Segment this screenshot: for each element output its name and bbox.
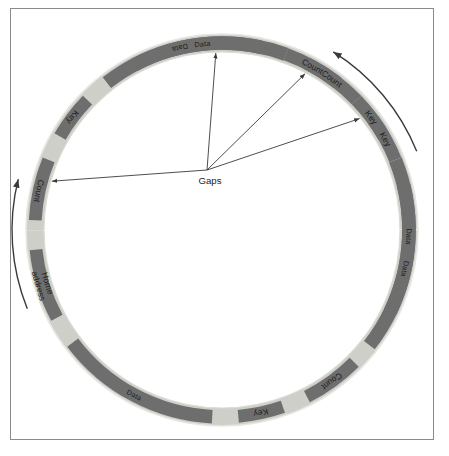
diagram-page: DataCountKeyDataCountKeyDataHomeaddressC… — [0, 0, 449, 456]
gaps-leader-arrow — [52, 170, 207, 181]
data-segment-label: Data — [194, 39, 211, 50]
gaps-leader-arrow — [207, 53, 216, 170]
data-segment-label: Data — [404, 228, 414, 244]
ring-diagram-svg: DataCountKeyDataCountKeyDataHomeaddressC… — [0, 0, 449, 456]
gaps-leader-arrow — [207, 74, 305, 170]
gaps-label: Gaps — [199, 175, 222, 186]
ring-segments-layer — [26, 34, 418, 426]
ring-diagram-stage: DataCountKeyDataCountKeyDataHomeaddressC… — [0, 0, 449, 456]
gaps-leader-arrow — [207, 119, 360, 170]
ring-base-lower — [26, 34, 418, 230]
ring-inner-edge — [44, 52, 400, 408]
rotation-arrow-bottom-left — [12, 179, 27, 308]
ring-base-upper — [26, 230, 418, 426]
